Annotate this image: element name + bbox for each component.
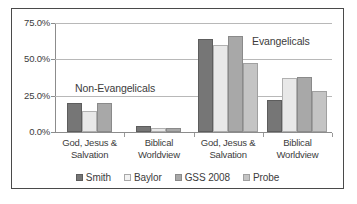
legend-swatch-icon [76,174,83,181]
bar [151,128,166,132]
bar [228,36,243,132]
bar [312,91,327,132]
category-axis-labels: God, Jesus &SalvationBiblicalWorldviewGo… [55,137,332,169]
bar [82,111,97,132]
bar [297,77,312,132]
category-label-line: Worldview [123,149,195,161]
category-label: BiblicalWorldview [261,137,333,160]
bar [67,103,82,132]
category-label-line: God, Jesus & [192,137,264,149]
category-label-line: Salvation [54,149,126,161]
legend-item-baylor[interactable]: Baylor [124,172,162,183]
chart-container: 75.0%50.0%25.0%0.0% God, Jesus &Salvatio… [11,8,344,189]
category-label-line: Worldview [261,149,333,161]
legend-label: Baylor [134,172,162,183]
y-axis-tick-label: 25.0% [24,90,50,101]
y-axis-tick-label: 75.0% [24,17,50,28]
category-label-line: Salvation [192,149,264,161]
y-axis-tick-label: 0.0% [29,126,50,137]
category-label: BiblicalWorldview [123,137,195,160]
bar [97,103,112,132]
bar [136,126,151,132]
legend-swatch-icon [124,174,131,181]
category-label-line: Biblical [261,137,333,149]
bar-group [124,23,193,132]
annotation-non-evangelicals: Non-Evangelicals [75,82,155,94]
annotation-evangelicals: Evangelicals [252,35,310,47]
bar [198,39,213,132]
legend-item-probe[interactable]: Probe [243,172,279,183]
chart-legend: SmithBaylorGSS 2008Probe [12,172,343,183]
category-label-line: God, Jesus & [54,137,126,149]
legend-label: Probe [253,172,279,183]
bar-group [55,23,124,132]
bar [282,78,297,133]
legend-item-gss-2008[interactable]: GSS 2008 [175,172,230,183]
legend-label: Smith [86,172,111,183]
legend-label: GSS 2008 [185,172,230,183]
category-label: God, Jesus &Salvation [192,137,264,160]
bar [267,100,282,132]
y-axis-tick-label: 50.0% [24,54,50,65]
category-label: God, Jesus &Salvation [54,137,126,160]
bar [243,63,258,132]
bar [166,128,181,132]
legend-item-smith[interactable]: Smith [76,172,111,183]
category-label-line: Biblical [123,137,195,149]
bar [213,45,228,132]
legend-swatch-icon [243,174,250,181]
legend-swatch-icon [175,174,182,181]
